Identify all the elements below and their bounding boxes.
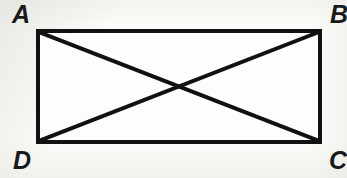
vertex-label-b: B [330, 2, 347, 27]
vertex-label-c: C [329, 148, 347, 173]
vertex-label-a: A [12, 2, 30, 27]
geometry-figure: A B C D [0, 0, 347, 178]
vertex-label-d: D [13, 148, 31, 173]
rectangle-diagram [0, 0, 347, 178]
